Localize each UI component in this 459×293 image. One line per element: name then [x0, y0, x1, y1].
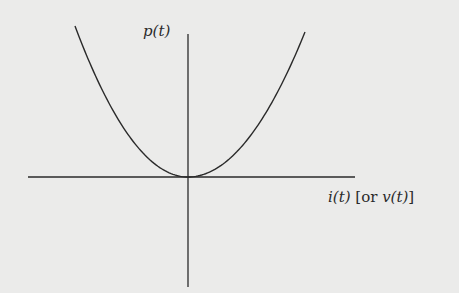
x-axis-label-bracket-close: ]: [408, 188, 414, 206]
x-axis-label-bracket-open: [or: [355, 188, 382, 206]
chart-plot: [0, 0, 459, 293]
power-curve: [75, 26, 305, 177]
x-axis-label: i(t) [or v(t)]: [328, 188, 414, 206]
y-axis-label: p(t): [143, 22, 170, 40]
x-axis-label-main: i(t): [328, 188, 351, 206]
x-axis-label-alt: v(t): [382, 188, 408, 206]
